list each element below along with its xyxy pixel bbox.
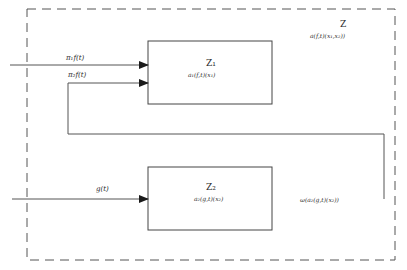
edge-pi1-label: π₁f(t) <box>66 55 84 62</box>
edge-pi2-label: π₂f(t) <box>68 72 86 79</box>
block-z2-name: Z₂ <box>206 183 216 192</box>
container-z-formula: a(f,t)(x₁,x₂)) <box>310 33 345 39</box>
container-z-name: Z <box>340 20 346 29</box>
edge-feedback-label: ω(a₂(g,t)(x₂)) <box>300 197 339 203</box>
block-z1-formula: a₁(f,t)(x₁) <box>188 72 215 78</box>
edge-g-label: g(t) <box>96 186 109 193</box>
block-z1-name: Z₁ <box>206 59 216 68</box>
diagram-canvas <box>0 0 407 270</box>
block-z2-formula: a₂(g,t)(x₂) <box>194 196 223 202</box>
